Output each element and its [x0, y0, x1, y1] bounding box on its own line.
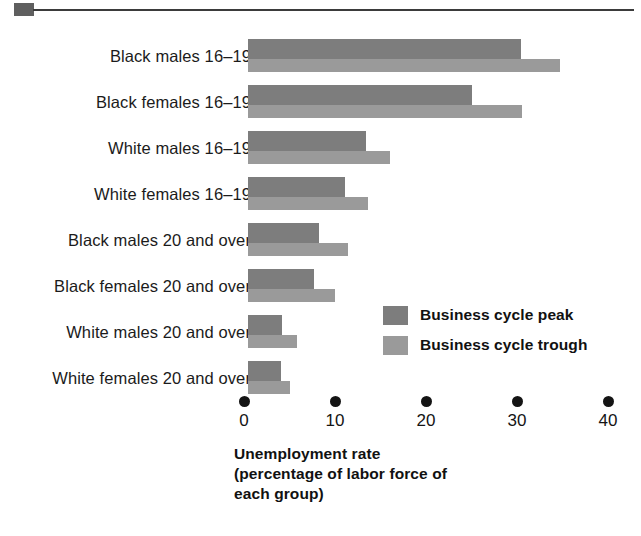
category-label: White females 20 and over: [1, 369, 251, 388]
legend-label: Business cycle trough: [420, 336, 587, 354]
chart-page: Black males 16–19Black females 16–19Whit…: [0, 0, 641, 536]
category-label: White females 16–19: [1, 185, 251, 204]
chart-category-row: White males 16–19: [0, 130, 641, 176]
chart-category-row: White females 16–19: [0, 176, 641, 222]
bar-business-cycle-trough: [248, 289, 335, 302]
bar-business-cycle-trough: [248, 335, 297, 348]
chart-legend: Business cycle peakBusiness cycle trough: [383, 300, 633, 360]
bar-business-cycle-peak: [248, 361, 281, 381]
legend-swatch-icon: [383, 306, 408, 325]
x-axis-tick-label: 10: [305, 411, 365, 431]
x-axis-tick-dot: [603, 396, 614, 407]
bar-business-cycle-peak: [248, 85, 472, 105]
x-axis-tick-label: 20: [396, 411, 456, 431]
legend-swatch-icon: [383, 336, 408, 355]
bar-business-cycle-trough: [248, 59, 560, 72]
x-axis-tick-dot: [421, 396, 432, 407]
category-label: Black males 20 and over: [1, 231, 251, 250]
legend-label: Business cycle peak: [420, 306, 574, 324]
category-label: White males 20 and over: [1, 323, 251, 342]
bar-business-cycle-peak: [248, 223, 319, 243]
bar-business-cycle-peak: [248, 39, 521, 59]
legend-item: Business cycle trough: [383, 330, 633, 360]
x-axis-tick-dot: [512, 396, 523, 407]
bar-business-cycle-peak: [248, 269, 314, 289]
legend-item: Business cycle peak: [383, 300, 633, 330]
bar-business-cycle-peak: [248, 177, 345, 197]
x-axis-title-line-3: each group): [234, 484, 564, 504]
bar-business-cycle-trough: [248, 197, 368, 210]
x-axis-tick-label: 40: [578, 411, 638, 431]
category-label: Black females 20 and over: [1, 277, 251, 296]
x-axis-tick-label: 30: [487, 411, 547, 431]
bar-business-cycle-trough: [248, 381, 290, 394]
chart-category-row: Black females 16–19: [0, 84, 641, 130]
bar-business-cycle-peak: [248, 315, 282, 335]
bar-business-cycle-trough: [248, 105, 522, 118]
x-axis-title-line-1: Unemployment rate: [234, 444, 564, 464]
category-label: White males 16–19: [1, 139, 251, 158]
chart-category-row: Black males 20 and over: [0, 222, 641, 268]
chart-category-row: Black males 16–19: [0, 38, 641, 84]
x-axis-tick-dot: [330, 396, 341, 407]
bar-business-cycle-trough: [248, 151, 390, 164]
x-axis-tick-dot: [239, 396, 250, 407]
bar-business-cycle-peak: [248, 131, 366, 151]
category-label: Black females 16–19: [1, 93, 251, 112]
bar-business-cycle-trough: [248, 243, 348, 256]
x-axis-title: Unemployment rate (percentage of labor f…: [234, 444, 564, 504]
x-axis: 010203040: [0, 396, 641, 446]
x-axis-title-line-2: (percentage of labor force of: [234, 464, 564, 484]
category-label: Black males 16–19: [1, 47, 251, 66]
x-axis-tick-label: 0: [214, 411, 274, 431]
